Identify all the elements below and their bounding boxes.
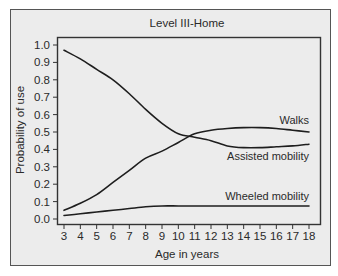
y-tick-label: 0.2 <box>34 178 50 190</box>
y-axis-title: Probability of use <box>14 86 26 174</box>
x-tick-label: 17 <box>286 230 299 242</box>
y-tick-label: 0.4 <box>34 143 51 155</box>
y-tick-label: 0.5 <box>34 126 50 138</box>
label-wheeled-mobility: Wheeled mobility <box>225 190 309 202</box>
x-tick-label: 4 <box>77 230 84 242</box>
chart-title: Level III-Home <box>150 17 225 29</box>
x-tick-label: 5 <box>93 230 99 242</box>
x-tick-label: 11 <box>189 230 201 242</box>
y-tick-label: 0.3 <box>34 161 50 173</box>
x-tick-label: 7 <box>126 230 132 242</box>
x-tick-label: 15 <box>254 230 267 242</box>
x-tick-label: 3 <box>61 230 67 242</box>
y-tick-label: 0.0 <box>34 213 50 225</box>
y-tick-label: 0.9 <box>34 56 50 68</box>
x-tick-label: 9 <box>159 230 165 242</box>
x-tick-label: 13 <box>221 230 234 242</box>
label-walks: Walks <box>279 114 309 126</box>
y-tick-label: 0.8 <box>34 74 50 86</box>
x-axis-title: Age in years <box>155 248 219 260</box>
x-tick-label: 14 <box>237 230 250 242</box>
x-tick-label: 16 <box>270 230 283 242</box>
x-tick-label: 8 <box>142 230 148 242</box>
y-tick-label: 0.7 <box>34 91 50 103</box>
x-tick-label: 18 <box>303 230 316 242</box>
y-tick-label: 0.6 <box>34 109 50 121</box>
x-tick-label: 6 <box>110 230 116 242</box>
x-tick-label: 10 <box>172 230 185 242</box>
x-tick-label: 12 <box>205 230 218 242</box>
label-assisted-mobility: Assisted mobility <box>227 150 309 162</box>
chart: Level III-Home 0.00.10.20.30.40.50.60.70… <box>0 0 338 276</box>
y-tick-label: 0.1 <box>34 196 50 208</box>
y-tick-label: 1.0 <box>34 39 50 51</box>
